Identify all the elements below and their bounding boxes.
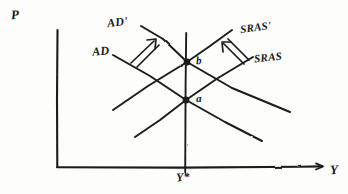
- equilibrium-point-a: [183, 97, 190, 104]
- curve-sras: [135, 57, 253, 137]
- sras-shift-arrow: [222, 39, 249, 64]
- y-axis: [57, 30, 58, 167]
- equilibrium-label-a: a: [196, 93, 202, 104]
- y-axis-label: P: [11, 8, 20, 22]
- diagram-canvas: P Y Y* AD' AD SRAS' SRAS b a: [0, 0, 348, 194]
- equilibrium-label-b: b: [196, 55, 203, 66]
- ad-shift-arrow: [131, 39, 159, 67]
- equilibrium-point-b: [184, 59, 191, 66]
- curve-ad-prime: [141, 26, 290, 112]
- curve-label-ad-prime: AD': [106, 15, 128, 29]
- curve-label-ad: AD: [92, 44, 110, 57]
- x-axis-label: Y: [330, 163, 339, 176]
- curve-sras-prime: [113, 30, 232, 110]
- potential-output-label: Y*: [176, 170, 191, 183]
- x-axis: [57, 166, 322, 167]
- ad-as-sketch: [0, 0, 348, 194]
